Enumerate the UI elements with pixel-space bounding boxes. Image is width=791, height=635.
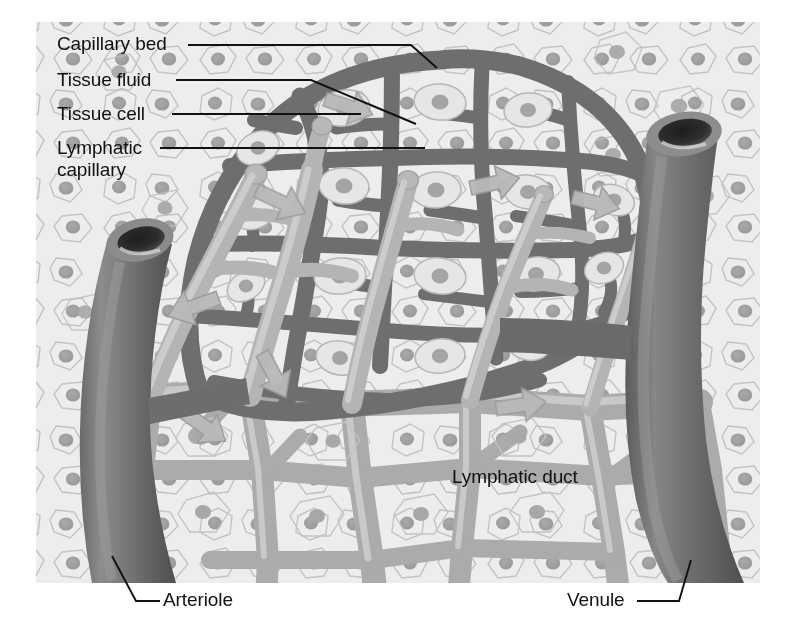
label-capillary-bed: Capillary bed [57,33,167,55]
label-tissue-cell: Tissue cell [57,103,145,125]
label-tissue-fluid: Tissue fluid [57,69,151,91]
label-arteriole: Arteriole [163,589,233,611]
label-lymphatic-capillary-line1: Lymphatic [57,137,142,158]
label-lymphatic-capillary: Lymphatic capillary [57,137,142,181]
capillary-bed-lymphatic-figure [0,0,791,635]
label-lymphatic-capillary-line2: capillary [57,159,126,180]
label-lymphatic-duct: Lymphatic duct [452,466,578,488]
label-venule: Venule [567,589,625,611]
